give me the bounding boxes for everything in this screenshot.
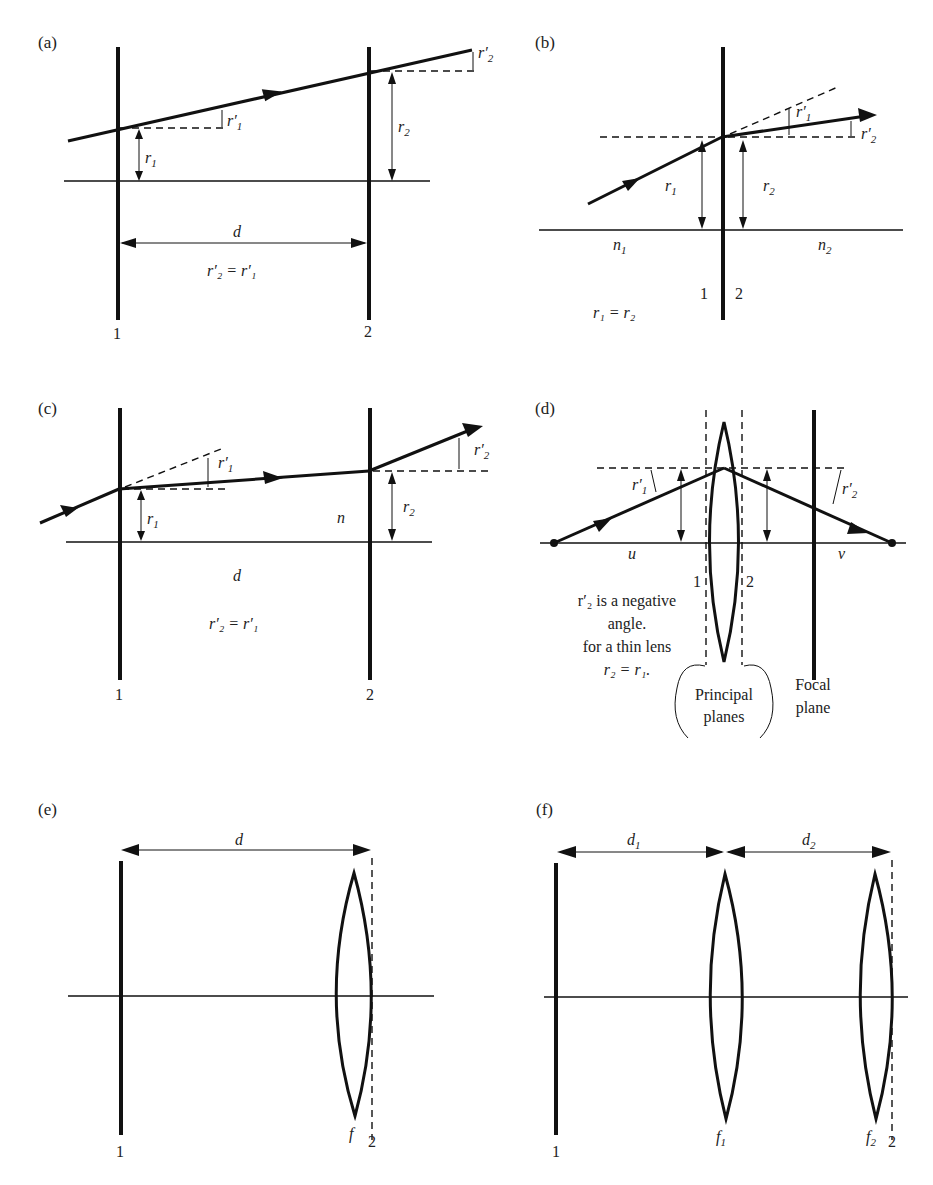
r1-prime-label: r′1 [227, 112, 242, 132]
arrowhead-icon [739, 140, 747, 152]
r1-prime-label: r′1 [796, 103, 811, 123]
d-label: d [233, 223, 242, 240]
arrowhead-icon [677, 530, 685, 542]
note-line: r′₂ is a negative [578, 592, 676, 610]
arrowhead-icon [137, 531, 145, 541]
panel-e: (e) d f 1 2 [38, 800, 434, 1160]
d-label: d [235, 831, 244, 848]
principal-planes-label: planes [704, 708, 745, 726]
arrowhead-icon [388, 72, 396, 84]
panel-label-c: (c) [38, 399, 57, 418]
plane-1-label: 1 [115, 686, 123, 703]
r2-label: r2 [398, 118, 410, 138]
equation: r₁ = r₂ [593, 304, 636, 321]
r1-label: r1 [147, 510, 159, 530]
panel-b: (b) r1 r2 r′1 r′2 n1 n2 1 2 r₁ = r₂ [535, 33, 903, 321]
arrowhead-icon [698, 217, 706, 229]
plane-2-label: 2 [746, 573, 754, 590]
plane-1-label: 1 [700, 285, 708, 302]
r2-label: r2 [763, 177, 775, 197]
panel-f: (f) d1 d2 f1 f2 1 2 [536, 800, 908, 1160]
arrowhead-icon [351, 238, 367, 248]
ray-arrow-icon [858, 108, 877, 122]
n-label: n [337, 509, 345, 526]
n2-label: n2 [818, 236, 832, 256]
arrowhead-icon [726, 846, 745, 858]
plane-2-label: 2 [888, 1133, 896, 1150]
f2-label: f2 [866, 1128, 876, 1148]
arrowhead-icon [388, 472, 396, 484]
r1-label: r1 [665, 177, 677, 197]
arrowhead-icon [557, 846, 576, 858]
arrowhead-icon [706, 846, 724, 858]
r2-prime-arc [833, 470, 841, 504]
panel-label-f: (f) [536, 800, 553, 819]
refracted-ray [724, 468, 892, 543]
d1-label: d1 [627, 831, 641, 851]
arrowhead-icon [135, 171, 143, 181]
arrowhead-icon [763, 530, 771, 542]
arrowhead-icon [121, 844, 139, 856]
plane-1-label: 1 [113, 325, 121, 342]
panel-label-e: (e) [38, 800, 57, 819]
plane-2-label: 2 [735, 285, 743, 302]
plane-1-label: 1 [116, 1143, 124, 1160]
v-label: v [838, 545, 846, 562]
r2-label: r2 [403, 498, 415, 518]
arrowhead-icon [137, 490, 145, 500]
n1-label: n1 [613, 236, 627, 256]
ray-transfer-diagram: (a) r1 r′1 r2 r′2 d r′₂ = r′₁ 1 2 [0, 0, 933, 1185]
ray-arrow-icon [622, 178, 640, 191]
plane-2-label: 2 [368, 1133, 376, 1150]
ray-arrow-icon [462, 423, 483, 437]
thin-lens [710, 422, 739, 662]
arrowhead-icon [388, 169, 396, 181]
arrowhead-icon [872, 846, 891, 858]
incident-ray [40, 489, 119, 523]
panel-c: (c) r1 r′1 r2 r′2 n d r′₂ = r′₁ 1 [38, 399, 490, 703]
note-line: r₂ = r₁. [604, 661, 650, 678]
plane-2-label: 2 [366, 686, 374, 703]
focal-plane-label: Focal [795, 676, 831, 693]
arrowhead-icon [739, 217, 747, 229]
arrowhead-icon [388, 529, 396, 541]
r1-prime-label: r′1 [218, 454, 233, 474]
panel-d: (d) r′1 r′2 u v 1 2 r′₂ is [535, 399, 906, 738]
r2-prime-label: r′2 [474, 441, 490, 461]
u-label: u [628, 545, 636, 562]
ray-in-medium [119, 471, 369, 489]
plane-1-label: 1 [693, 573, 701, 590]
plane-1-label: 1 [552, 1143, 560, 1160]
arrowhead-icon [677, 469, 685, 481]
r1-prime-label: r′1 [632, 476, 647, 496]
equation: r′₂ = r′₁ [207, 262, 256, 279]
principal-planes-label: Principal [695, 686, 753, 704]
d2-label: d2 [802, 831, 816, 851]
r1-label: r1 [145, 149, 157, 169]
panel-label-d: (d) [535, 399, 555, 418]
note-line: for a thin lens [583, 638, 671, 655]
focal-plane-label: plane [796, 699, 831, 717]
r2-prime-label: r′2 [861, 125, 877, 145]
arrowhead-icon [120, 238, 136, 248]
r2-prime-label: r′2 [478, 44, 494, 64]
d-label: d [233, 567, 242, 584]
panel-label-a: (a) [38, 33, 57, 52]
refracted-ray [722, 116, 866, 137]
f1-label: f1 [716, 1128, 726, 1148]
plane-2-label: 2 [364, 323, 372, 340]
panel-a: (a) r1 r′1 r2 r′2 d r′₂ = r′₁ 1 2 [38, 33, 494, 342]
equation: r′₂ = r′₁ [209, 615, 258, 632]
r1-prime-arc [651, 470, 656, 492]
arrowhead-icon [353, 844, 371, 856]
arrowhead-icon [135, 129, 143, 139]
lens-f [336, 873, 371, 1116]
ray-arrow-icon [263, 471, 283, 484]
ray-arrow-icon [593, 518, 612, 532]
r2-prime-label: r′2 [842, 480, 858, 500]
arrowhead-icon [763, 469, 771, 481]
note-line: angle. [608, 615, 647, 633]
panel-label-b: (b) [535, 33, 555, 52]
exit-ray [369, 430, 470, 471]
f-label: f [349, 1125, 356, 1143]
